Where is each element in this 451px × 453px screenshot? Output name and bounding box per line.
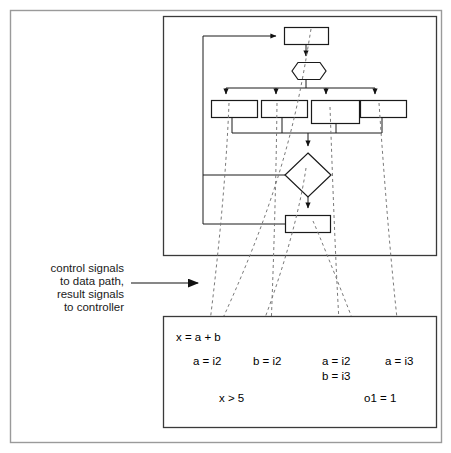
state-top-box: [285, 28, 329, 45]
block-diagram-svg: control signals to data path, result sig…: [0, 0, 451, 453]
expr-x-eq-a-plus-b: x = a + b: [176, 331, 221, 343]
action-box-2: [262, 101, 308, 118]
state-bottom-box: [286, 216, 331, 233]
decision-hexagon: [292, 63, 326, 80]
caption-line-2: to data path,: [60, 275, 124, 287]
expr-a-eq-i2-right: a = i2: [322, 355, 350, 367]
caption-line-3: result signals: [57, 288, 124, 300]
action-box-4: [361, 101, 407, 118]
caption-line-4: to controller: [64, 301, 124, 313]
action-box-3: [312, 101, 360, 124]
expr-b-eq-i3: b = i3: [322, 370, 350, 382]
expr-x-gt-5: x > 5: [219, 392, 244, 404]
expr-a-eq-i3: a = i3: [385, 355, 413, 367]
caption-line-1: control signals: [50, 262, 124, 274]
expr-a-eq-i2-left: a = i2: [193, 355, 221, 367]
figure-root: control signals to data path, result sig…: [0, 0, 451, 453]
expr-o1-eq-1: o1 = 1: [364, 392, 396, 404]
expr-b-eq-i2: b = i2: [253, 355, 281, 367]
action-box-1: [212, 101, 258, 118]
